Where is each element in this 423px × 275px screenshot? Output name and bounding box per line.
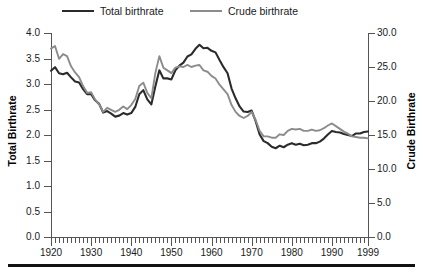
birthrate-chart-figure: Total birthrate Crude birthrate Total Bi… <box>0 0 423 275</box>
series-line-crude-birthrate <box>51 46 368 138</box>
footer-rule <box>8 264 415 267</box>
series-plot-area <box>0 0 423 275</box>
series-line-total-birthrate <box>51 45 368 149</box>
